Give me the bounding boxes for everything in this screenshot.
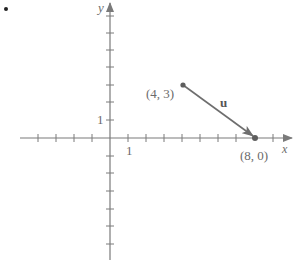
x-unit-label: 1 [126,143,133,158]
vector-label: u [220,95,227,110]
terminal-point-dot [252,135,258,141]
x-axis-label: x [281,142,288,156]
initial-point-dot [180,82,185,87]
terminal-point-label: (8, 0) [240,148,268,163]
y-unit-label: 1 [97,112,104,127]
bullet-marker [4,7,8,11]
coordinate-plane-diagram: y x 1 1 u (4, 3) (8, 0) [0,0,299,275]
y-axis [106,3,114,260]
y-axis-label: y [96,0,104,15]
vector-u [180,82,258,141]
initial-point-label: (4, 3) [146,86,174,101]
